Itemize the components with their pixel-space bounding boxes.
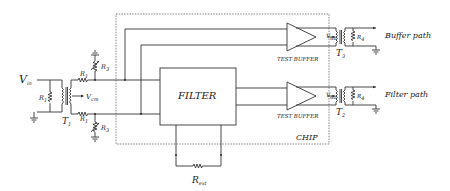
t2-label: T2 bbox=[336, 107, 345, 118]
r1-shunt-resistor bbox=[48, 92, 52, 102]
rext-label: Rext bbox=[191, 175, 208, 186]
r1-top-resistor bbox=[78, 78, 88, 82]
vdd-top-label: Vdd bbox=[326, 32, 337, 41]
r3-top-label: R3 bbox=[100, 63, 109, 72]
r4-bottom-resistor bbox=[351, 90, 355, 100]
rext-resistor bbox=[193, 164, 203, 168]
t1-label: T1 bbox=[62, 116, 71, 127]
top-test-buffer bbox=[287, 23, 316, 51]
circuit-diagram: Vin R1 Vcm T1 R1 R1 R3 R3 FILTER TEST BU… bbox=[0, 0, 450, 191]
vdd-bottom-label: Vdd bbox=[326, 91, 337, 100]
t2-transformer-secondary bbox=[344, 90, 346, 102]
test-buffer-bottom-label: TEST BUFFER bbox=[277, 113, 318, 119]
r4-top-resistor bbox=[351, 31, 355, 41]
r3-bottom-variable-resistor bbox=[93, 122, 97, 132]
t1-transformer-primary bbox=[62, 88, 64, 104]
chip-label: CHIP bbox=[296, 133, 318, 142]
buffer-path-label: Buffer path bbox=[384, 31, 431, 40]
t3-transformer-secondary bbox=[344, 31, 346, 43]
bottom-test-buffer bbox=[287, 82, 316, 110]
r4-top-label: R4 bbox=[356, 34, 364, 42]
r3-bottom-label: R3 bbox=[100, 124, 109, 133]
vcm-label: Vcm bbox=[86, 93, 99, 102]
r1-top-label: R1 bbox=[79, 70, 88, 79]
test-buffer-top-label: TEST BUFFER bbox=[277, 56, 318, 62]
t1-transformer-secondary bbox=[70, 88, 72, 104]
r4-bottom-label: R4 bbox=[356, 93, 364, 101]
t3-label: T3 bbox=[336, 48, 345, 59]
vin-label: Vin bbox=[19, 73, 32, 86]
r1-shunt-label: R1 bbox=[38, 94, 47, 103]
filter-path-label: Filter path bbox=[384, 90, 428, 99]
r3-top-variable-resistor bbox=[93, 62, 97, 72]
filter-label: FILTER bbox=[177, 90, 217, 101]
